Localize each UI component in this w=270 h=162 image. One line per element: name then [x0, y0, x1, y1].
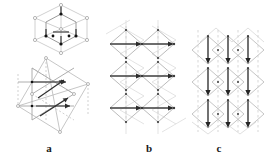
panel-a-cube [30, 2, 92, 56]
panel-caption-c: c [209, 142, 229, 154]
panel-b-lattice [96, 20, 188, 138]
panel-c-lattice [188, 26, 268, 134]
panel-a-octahedron [10, 54, 96, 138]
octahedron-dashed-edges [18, 58, 88, 120]
panel-caption-b: b [139, 142, 159, 154]
octahedron-arrowheads [59, 80, 70, 109]
octahedron-outer-edges [18, 58, 88, 132]
panel-caption-a: a [39, 142, 59, 154]
figure-container: a b c [0, 0, 270, 162]
